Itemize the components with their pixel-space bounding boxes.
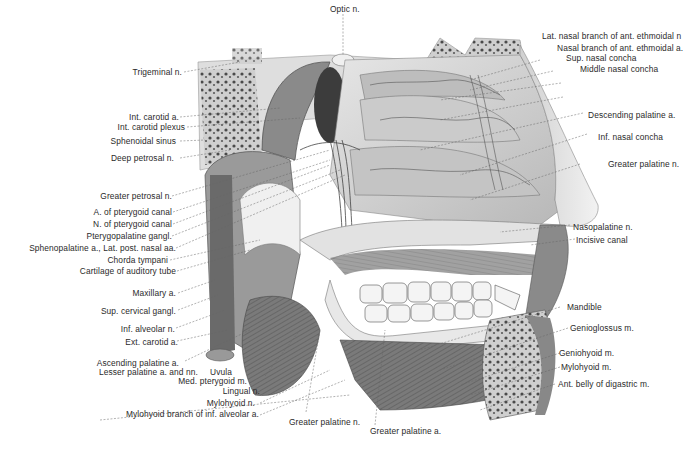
label-deep-petrosal-n: Deep petrosal n. [111, 153, 174, 163]
label-maxillary-a: Maxillary a. [132, 288, 176, 298]
teeth [360, 282, 520, 322]
label-int-carotid-a: Int. carotid a. [129, 112, 179, 122]
label-nasal-branch-ant-ethmoidal-a: Nasal branch of ant. ethmoidal a. [557, 43, 683, 53]
label-sphenoidal-sinus: Sphenoidal sinus [111, 136, 176, 146]
label-descending-palatine-a: Descending palatine a. [588, 110, 675, 120]
label-trigeminal-n: Trigeminal n. [133, 67, 182, 77]
label-chorda-tympani: Chorda tympani [107, 255, 168, 265]
anatomical-figure: Optic n. Trigeminal n. Int. carotid a. I… [0, 0, 692, 449]
label-ext-carotid-a: Ext. carotid a. [125, 337, 178, 347]
label-mylohyoid-branch-inf-alveolar-a: Mylohyoid branch of inf. alveolar a. [126, 409, 259, 419]
palate-mucosa [330, 249, 540, 275]
label-greater-petrosal-n: Greater petrosal n. [100, 191, 172, 201]
label-geniohyoid-m: Geniohyoid m. [559, 348, 614, 358]
label-mylohyoid-m: Mylohyoid m. [561, 362, 612, 372]
label-sphenopalatine-a: Sphenopalatine a., Lat. post. nasal aa. [29, 243, 176, 253]
label-optic-n: Optic n. [330, 4, 360, 14]
carotid-column [210, 175, 235, 355]
label-greater-palatine-a: Greater palatine a. [370, 426, 441, 436]
label-mandible: Mandible [567, 302, 602, 312]
label-greater-palatine-n-right: Greater palatine n. [608, 159, 679, 169]
label-n-pterygoid-canal: N. of pterygoid canal [93, 219, 172, 229]
label-incisive-canal: Incisive canal [576, 235, 628, 245]
label-a-pterygoid-canal: A. of pterygoid canal [94, 207, 172, 217]
label-lat-nasal-branch-ant-ethmoidal-n: Lat. nasal branch of ant. ethmoidal n [542, 31, 681, 41]
label-cartilage-auditory-tube: Cartilage of auditory tube [80, 266, 176, 276]
label-med-pterygoid-m: Med. pterygoid m. [178, 376, 247, 386]
med-pterygoid-muscle [242, 296, 320, 395]
label-nasopalatine-n: Nasopalatine n. [573, 222, 633, 232]
label-ant-belly-digastric-m: Ant. belly of digastric m. [558, 379, 650, 389]
label-pterygopalatine-gangl: Pterygopalatine gangl. [86, 231, 172, 241]
label-genioglossus-m: Genioglossus m. [570, 323, 634, 333]
label-sup-cervical-gangl: Sup. cervical gangl. [101, 306, 176, 316]
label-sup-nasal-concha: Sup. nasal concha [566, 53, 637, 63]
label-inf-nasal-concha: Inf. nasal concha [598, 132, 663, 142]
label-lingual-n: Lingual n. [223, 386, 260, 396]
label-mylohyoid-n: Mylohyoid n. [207, 398, 255, 408]
label-middle-nasal-concha: Middle nasal concha [580, 64, 658, 74]
label-inf-alveolar-n: Inf. alveolar n. [121, 324, 175, 334]
label-int-carotid-plexus: Int. carotid plexus [117, 122, 185, 132]
label-greater-palatine-n-bottom: Greater palatine n. [289, 417, 360, 427]
